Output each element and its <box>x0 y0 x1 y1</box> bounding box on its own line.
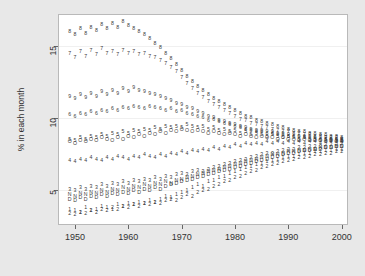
data-point-december-1988: D <box>276 154 280 159</box>
data-point-september-1963: 9 <box>143 90 146 95</box>
data-point-july-1957: 7 <box>111 50 114 55</box>
data-point-september-1982: 9 <box>244 125 247 130</box>
data-point-december-1950: D <box>73 198 77 203</box>
data-point-february-1981: 2 <box>239 174 242 179</box>
data-point-october-1979: O <box>228 131 232 136</box>
data-point-june-1952: 6 <box>84 113 87 118</box>
data-point-july-1977: 7 <box>218 105 221 110</box>
data-point-april-1952: 4 <box>84 158 87 163</box>
data-point-august-1950: 8 <box>74 32 77 37</box>
data-point-june-1963: 6 <box>143 107 146 112</box>
x-tick-label-1970: 1970 <box>172 232 192 242</box>
data-point-august-1968: 8 <box>170 57 173 62</box>
data-point-april-1984: 4 <box>255 141 258 146</box>
data-point-october-1978: O <box>222 133 226 138</box>
data-point-september-1958: 9 <box>116 91 119 96</box>
data-point-july-1981: 7 <box>239 117 242 122</box>
data-point-october-1984: O <box>254 136 258 141</box>
data-point-august-1983: 8 <box>250 115 253 120</box>
data-point-july-1949: 7 <box>68 51 71 56</box>
data-point-december-1956: D <box>105 194 109 199</box>
data-point-august-1952: 8 <box>84 31 87 36</box>
data-point-october-1955: O <box>100 136 104 141</box>
data-point-december-1967: D <box>164 184 168 189</box>
data-point-december-1954: D <box>94 196 98 201</box>
data-point-may-1967: 5 <box>164 124 167 129</box>
data-point-september-1956: 9 <box>106 93 109 98</box>
data-point-february-1959: 2 <box>122 204 125 209</box>
data-point-december-1994: D <box>308 148 312 153</box>
data-point-september-1962: 9 <box>138 88 141 93</box>
data-point-february-1987: 2 <box>271 163 274 168</box>
data-point-december-2000: D <box>340 144 344 149</box>
data-point-december-1997: D <box>324 146 328 151</box>
data-point-july-1972: 7 <box>191 87 194 92</box>
data-point-april-1964: 4 <box>148 154 151 159</box>
data-point-april-1973: 4 <box>196 150 199 155</box>
data-point-february-1949: 2 <box>68 211 71 216</box>
data-point-december-1955: D <box>100 193 104 198</box>
data-point-october-1989: O <box>281 136 285 141</box>
data-point-may-1959: 5 <box>122 130 125 135</box>
data-point-february-1996: 2 <box>319 153 322 158</box>
data-point-december-1982: D <box>244 163 248 168</box>
data-point-april-1962: 4 <box>138 156 141 161</box>
data-point-february-1963: 2 <box>143 201 146 206</box>
data-point-december-1968: D <box>169 183 173 188</box>
data-point-september-1957: 9 <box>111 88 114 93</box>
data-point-august-1982: 8 <box>244 114 247 119</box>
data-point-december-1992: D <box>297 150 301 155</box>
data-point-december-1989: D <box>281 153 285 158</box>
data-point-april-1981: 4 <box>239 144 242 149</box>
data-point-october-1957: O <box>110 138 114 143</box>
data-point-october-1994: O <box>308 138 312 143</box>
data-point-february-1955: 2 <box>100 207 103 212</box>
data-point-january-1972: 1 <box>191 186 194 191</box>
data-point-october-1985: O <box>260 134 264 139</box>
data-point-february-1964: 2 <box>148 203 151 208</box>
data-point-april-1985: 4 <box>260 143 263 148</box>
data-point-june-1958: 6 <box>116 108 119 113</box>
data-point-october-1965: O <box>153 133 157 138</box>
data-point-april-1967: 4 <box>164 154 167 159</box>
data-point-july-1953: 7 <box>90 48 93 53</box>
data-point-february-1989: 2 <box>282 160 285 165</box>
data-point-october-1976: O <box>212 130 216 135</box>
data-point-december-1985: D <box>260 158 264 163</box>
data-point-september-1967: 9 <box>164 97 167 102</box>
y-tick-label-5: 5 <box>48 190 58 195</box>
data-point-december-1972: D <box>190 177 194 182</box>
data-point-june-1953: 6 <box>90 110 93 115</box>
data-point-april-1980: 4 <box>234 143 237 148</box>
data-point-september-1968: 9 <box>170 98 173 103</box>
data-point-december-1984: D <box>254 160 258 165</box>
data-point-october-1968: O <box>169 128 173 133</box>
data-point-june-1964: 6 <box>148 104 151 109</box>
data-point-october-1950: O <box>73 141 77 146</box>
data-point-april-1957: 4 <box>111 157 114 162</box>
data-point-december-1987: D <box>270 156 274 161</box>
data-point-october-1962: O <box>137 133 141 138</box>
data-point-july-1965: 7 <box>154 55 157 60</box>
data-point-september-1974: 9 <box>202 111 205 116</box>
data-point-april-1987: 4 <box>271 141 274 146</box>
data-point-june-1972: 6 <box>191 113 194 118</box>
data-point-july-1971: 7 <box>186 81 189 86</box>
data-point-july-1964: 7 <box>148 54 151 59</box>
data-point-april-1971: 4 <box>186 151 189 156</box>
data-point-august-1978: 8 <box>223 103 226 108</box>
data-point-february-1990: 2 <box>287 158 290 163</box>
data-point-september-1964: 9 <box>148 91 151 96</box>
data-point-july-1980: 7 <box>234 114 237 119</box>
data-point-october-1969: O <box>174 130 178 135</box>
data-point-december-1991: D <box>292 151 296 156</box>
data-point-october-1949: O <box>68 140 72 145</box>
data-point-june-1955: 6 <box>100 108 103 113</box>
data-point-october-1959: O <box>121 137 125 142</box>
data-point-october-1996: O <box>318 138 322 143</box>
data-point-february-1972: 2 <box>191 194 194 199</box>
data-point-june-1951: 6 <box>79 111 82 116</box>
data-point-december-1963: D <box>142 187 146 192</box>
data-point-september-1983: 9 <box>250 127 253 132</box>
data-point-april-1965: 4 <box>154 156 157 161</box>
